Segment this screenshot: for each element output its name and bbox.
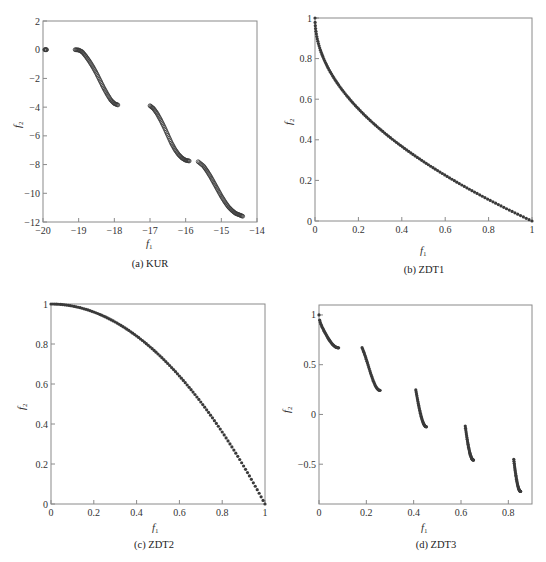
y-tick-label: 1: [43, 299, 48, 310]
y-tick-label: 0: [43, 499, 48, 510]
y-tick-label: 0: [311, 409, 316, 420]
plot-frame-zdt2: [51, 304, 265, 504]
data-point: [228, 442, 231, 445]
data-point: [254, 485, 257, 488]
data-point: [314, 21, 317, 24]
x-axis-label-zdt2: f1: [152, 521, 159, 535]
x-tick-label: 0.2: [360, 507, 373, 518]
x-tick-label: 0.6: [439, 224, 452, 235]
data-point: [502, 206, 505, 209]
data-point: [511, 210, 514, 213]
caption-zdt1: (b) ZDT1: [404, 264, 445, 276]
data-point: [494, 202, 497, 205]
data-point: [203, 406, 206, 409]
data-point: [209, 414, 212, 417]
y-tick-label: 0: [35, 44, 40, 55]
x-tick-label: −16: [178, 225, 194, 236]
y-tick-label: 0.6: [36, 379, 49, 390]
data-point: [314, 24, 317, 27]
y-tick-label: 0.8: [300, 53, 313, 64]
x-tick-label: 0.2: [88, 507, 101, 518]
data-point: [224, 436, 227, 439]
y-axis-label-zdt2: f2: [15, 403, 29, 410]
data-point: [525, 217, 528, 220]
caption-kur: (a) KUR: [132, 258, 168, 270]
data-point: [337, 346, 340, 349]
x-tick-label: 0: [313, 224, 318, 235]
y-tick-label: −8: [29, 159, 40, 170]
x-tick-label: 0.6: [173, 507, 186, 518]
x-tick-label: −14: [249, 225, 265, 236]
panel-zdt3: 00.20.40.60.8−0.500.51 f1 f2 (d) ZDT3: [280, 305, 532, 551]
data-point: [256, 488, 259, 491]
data-point: [211, 416, 214, 419]
x-tick-label: 0.8: [502, 507, 515, 518]
y-tick-label: −12: [24, 217, 40, 228]
data-points-kur: [43, 48, 245, 218]
data-point: [223, 433, 226, 436]
x-tick-label: 0.2: [352, 224, 365, 235]
x-tick-label: 0.4: [407, 507, 420, 518]
y-axis-label-zdt1: f2: [282, 118, 296, 125]
x-tick-label: 0.8: [216, 507, 229, 518]
data-point: [221, 430, 224, 433]
y-tick-label: −0.5: [298, 459, 316, 470]
y-tick-label: −2: [29, 73, 40, 84]
data-point: [261, 499, 264, 502]
data-point: [232, 448, 235, 451]
y-tick-label: 0: [307, 216, 312, 227]
data-point: [242, 464, 245, 467]
data-point: [378, 389, 381, 392]
y-tick-label: −10: [24, 188, 40, 199]
data-point: [219, 428, 222, 431]
data-points-zdt2: [49, 302, 266, 505]
y-tick-label: 2: [35, 16, 40, 27]
ticks-zdt1: 00.20.40.60.8100.20.40.60.81: [300, 13, 535, 236]
x-tick-label: 0.4: [396, 224, 409, 235]
x-axis-label-zdt1: f1: [420, 244, 427, 258]
data-point: [499, 204, 502, 207]
data-point: [508, 208, 511, 211]
data-point: [246, 471, 249, 474]
x-tick-label: −15: [214, 225, 230, 236]
x-tick-label: 1: [530, 224, 535, 235]
data-point: [226, 439, 229, 442]
data-point: [519, 490, 522, 493]
data-point: [197, 398, 200, 401]
data-point: [230, 445, 233, 448]
y-tick-label: 0.5: [304, 359, 317, 370]
y-axis-label-kur: f2: [11, 121, 25, 128]
data-point: [250, 478, 253, 481]
data-point: [260, 495, 263, 498]
caption-zdt3: (d) ZDT3: [416, 539, 457, 551]
x-tick-label: 0.6: [455, 507, 468, 518]
data-point: [205, 408, 208, 411]
data-point: [213, 419, 216, 422]
data-point: [314, 27, 317, 30]
y-tick-label: −4: [29, 102, 40, 113]
x-tick-label: −19: [71, 225, 87, 236]
x-tick-label: 0: [49, 507, 54, 518]
data-point: [234, 452, 237, 455]
data-point: [258, 492, 261, 495]
x-tick-label: 0.4: [130, 507, 143, 518]
y-tick-label: 0.8: [36, 339, 49, 350]
y-tick-label: 0.6: [300, 94, 313, 105]
y-tick-label: 1: [307, 13, 312, 24]
data-point: [528, 218, 531, 221]
data-point: [519, 214, 522, 217]
data-point: [195, 395, 198, 398]
y-tick-label: 0.2: [300, 175, 313, 186]
data-point: [240, 461, 243, 464]
data-point: [248, 474, 251, 477]
data-points-zdt3: [317, 313, 522, 493]
data-point: [472, 458, 475, 461]
plot-frame-zdt1: [315, 18, 532, 221]
data-point: [513, 211, 516, 214]
ticks-zdt2: 00.20.40.60.8100.20.40.60.81: [36, 299, 268, 519]
y-tick-label: 1: [311, 309, 316, 320]
data-point: [530, 219, 533, 222]
data-point: [207, 411, 210, 414]
data-point: [252, 481, 255, 484]
data-point: [425, 425, 428, 428]
